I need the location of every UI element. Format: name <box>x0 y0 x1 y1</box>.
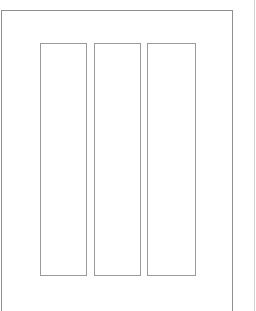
panel-3 <box>147 43 196 276</box>
panel-2 <box>94 43 141 276</box>
wireframe-canvas <box>0 0 256 311</box>
right-edge-divider <box>254 0 255 311</box>
panel-1 <box>40 43 87 276</box>
